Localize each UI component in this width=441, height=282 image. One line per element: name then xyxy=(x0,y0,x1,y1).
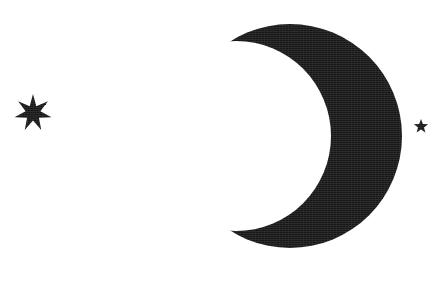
artwork-canvas: Crescent moon with stars xyxy=(0,0,441,282)
artwork-svg: Crescent moon with stars xyxy=(0,0,441,282)
crescent-moon-icon xyxy=(0,0,441,282)
